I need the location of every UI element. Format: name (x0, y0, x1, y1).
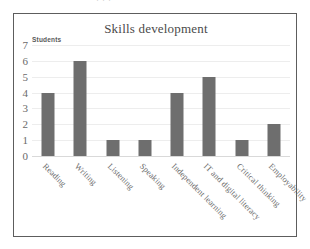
x-label-slot: Writing (64, 158, 96, 236)
bar-slot (193, 45, 225, 156)
bar[interactable] (74, 61, 87, 156)
bar[interactable] (235, 140, 248, 156)
bar[interactable] (42, 93, 55, 156)
y-axis-tick-labels: 01234567 (14, 45, 30, 156)
x-axis-baseline (32, 156, 290, 157)
bar-slot (97, 45, 129, 156)
x-label-slot: Independent learning (161, 158, 193, 236)
x-label-slot: Speaking (129, 158, 161, 236)
y-axis-title: Students (32, 36, 61, 43)
bar-slot (161, 45, 193, 156)
bar-slot (226, 45, 258, 156)
x-axis-tick-labels: ReadingWritingListeningSpeakingIndepende… (32, 158, 290, 236)
chart-frame: Skills development Students 01234567 Rea… (13, 13, 297, 237)
x-label-slot: Critical thinking (226, 158, 258, 236)
x-label-slot: Reading (32, 158, 64, 236)
cropped-header-text: · · · (96, 0, 112, 5)
y-tick-label: 4 (23, 87, 29, 98)
y-tick-label: 6 (23, 55, 29, 66)
y-tick-label: 3 (23, 103, 29, 114)
bar-slot (64, 45, 96, 156)
x-label-slot: Employability (258, 158, 290, 236)
y-tick-label: 2 (23, 119, 29, 130)
bar-slot (32, 45, 64, 156)
y-tick-label: 5 (23, 71, 29, 82)
x-tick-label: Employability (267, 161, 309, 203)
y-tick-label: 7 (23, 40, 29, 51)
x-tick-label: Writing (73, 161, 99, 187)
x-label-slot: IT and digital literacy (193, 158, 225, 236)
bar[interactable] (203, 77, 216, 156)
plot-area (32, 45, 290, 156)
x-label-slot: Listening (97, 158, 129, 236)
bar-slot (129, 45, 161, 156)
bar[interactable] (106, 140, 119, 156)
chart-title: Skills development (14, 21, 298, 37)
y-tick-label: 0 (23, 151, 29, 162)
bar[interactable] (171, 93, 184, 156)
bar[interactable] (267, 124, 280, 156)
bar-series (32, 45, 290, 156)
bar-slot (258, 45, 290, 156)
bar[interactable] (138, 140, 151, 156)
cropped-header-strip: · · · (0, 0, 310, 12)
chart-image: · · · Skills development Students 012345… (0, 0, 310, 249)
y-tick-label: 1 (23, 135, 29, 146)
